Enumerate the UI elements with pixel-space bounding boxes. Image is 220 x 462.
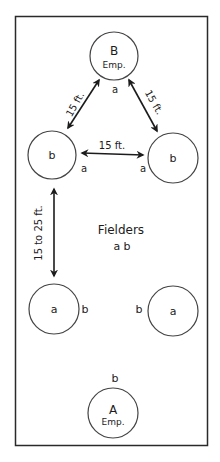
station-right-upper: b xyxy=(148,133,198,183)
svg-text:B: B xyxy=(110,44,118,58)
svg-text:b: b xyxy=(49,149,56,162)
drill-diagram: B Emp. a b a b a a b a b b A Emp. 15 ft.… xyxy=(0,0,220,462)
right-lower-position-label: b xyxy=(136,303,143,316)
left-lower-position-label: b xyxy=(82,303,89,316)
station-left-lower: a xyxy=(29,284,79,334)
bottom-position-label: b xyxy=(112,372,119,385)
arrow-horizontal xyxy=(82,153,143,155)
center-label-sub: a b xyxy=(113,240,130,253)
svg-text:A: A xyxy=(109,403,118,417)
distance-vertical: 15 to 25 ft. xyxy=(33,205,44,260)
station-bottom: A Emp. xyxy=(88,388,138,438)
right-upper-position-label: a xyxy=(140,163,146,174)
top-position-label: a xyxy=(112,84,118,95)
station-top: B Emp. xyxy=(90,32,138,80)
svg-text:b: b xyxy=(170,152,177,165)
station-left-upper: b xyxy=(28,131,76,179)
svg-text:Emp.: Emp. xyxy=(101,417,124,427)
svg-text:a: a xyxy=(170,305,177,318)
distance-horizontal: 15 ft. xyxy=(99,140,125,151)
center-label-title: Fielders xyxy=(98,223,144,237)
svg-text:a: a xyxy=(51,303,58,316)
svg-text:Emp.: Emp. xyxy=(102,60,125,70)
left-upper-position-label: a xyxy=(81,163,87,174)
station-right-lower: a xyxy=(148,286,198,336)
